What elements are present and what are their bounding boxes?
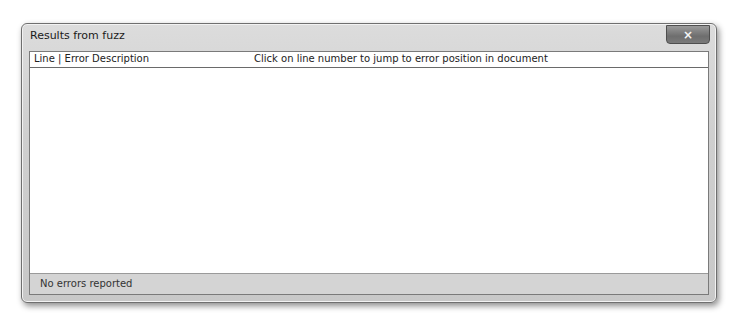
close-button[interactable]: × [666,25,710,44]
status-bar: No errors reported [30,273,708,294]
status-text: No errors reported [40,278,132,289]
column-header-line-description[interactable]: Line | Error Description [34,53,149,64]
results-dialog: Results from fuzz × Line | Error Descrip… [21,23,717,303]
window-title: Results from fuzz [30,29,125,42]
error-list[interactable] [30,68,708,273]
title-bar[interactable]: Results from fuzz × [22,24,716,48]
list-header: Line | Error Description Click on line n… [30,52,708,68]
close-icon: × [683,28,693,42]
column-header-hint[interactable]: Click on line number to jump to error po… [254,53,548,64]
results-panel: Line | Error Description Click on line n… [29,51,709,295]
